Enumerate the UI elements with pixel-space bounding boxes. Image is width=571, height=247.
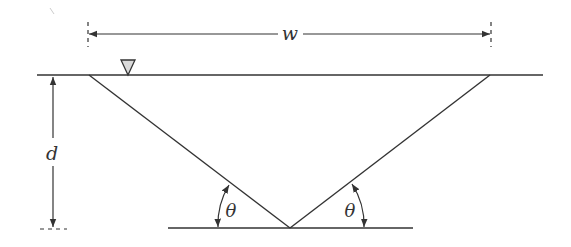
channel-left-side [89, 75, 290, 228]
left-angle-label: θ [226, 200, 237, 221]
width-dimension: w [88, 22, 491, 47]
width-label: w [282, 22, 298, 44]
left-angle-indicator: θ [218, 185, 237, 227]
depth-label: d [46, 142, 58, 164]
depth-dimension: d [40, 77, 67, 229]
free-surface-marker-icon [121, 60, 135, 75]
channel-diagram: w d θ θ [0, 0, 571, 247]
channel-right-side [290, 75, 490, 228]
right-angle-label: θ [345, 200, 356, 221]
stray-mark [50, 8, 54, 14]
right-angle-indicator: θ [345, 184, 364, 227]
